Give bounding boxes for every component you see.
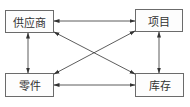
node-part: 零件 bbox=[5, 73, 54, 97]
diagram: 供应商 项目 零件 库存 bbox=[0, 0, 190, 107]
node-supplier: 供应商 bbox=[5, 10, 54, 33]
node-project-label: 项目 bbox=[148, 13, 170, 29]
node-inventory: 库存 bbox=[135, 73, 184, 97]
node-project: 项目 bbox=[135, 9, 183, 32]
node-part-label: 零件 bbox=[19, 77, 41, 93]
node-supplier-label: 供应商 bbox=[13, 14, 46, 30]
node-inventory-label: 库存 bbox=[149, 77, 171, 93]
